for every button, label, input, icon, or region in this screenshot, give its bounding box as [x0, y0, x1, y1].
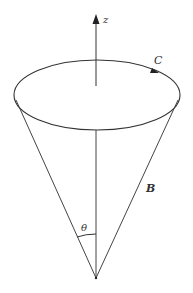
cone-left-edge: [16, 100, 96, 278]
angle-arc: [77, 234, 96, 237]
cone-diagram: z C B θ: [0, 0, 193, 293]
apex-point: [95, 277, 97, 279]
vector-b-line: [96, 100, 178, 278]
z-axis-label: z: [102, 14, 109, 25]
z-axis-arrow-icon: [93, 14, 100, 24]
curve-c-label: C: [154, 54, 163, 67]
vector-b-label: B: [145, 182, 155, 195]
angle-theta-label: θ: [81, 222, 87, 233]
